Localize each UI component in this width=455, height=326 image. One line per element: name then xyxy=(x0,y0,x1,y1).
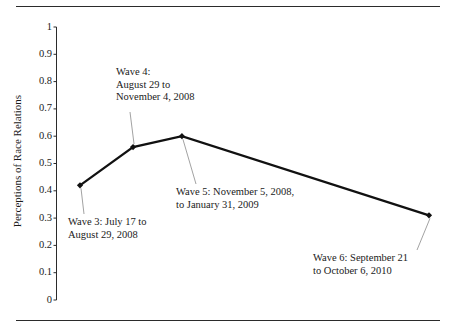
data-point-marker xyxy=(426,212,432,218)
annotation-wave-3-line-1: Wave 3: July 17 to xyxy=(68,216,146,229)
annotation-wave-6-line-2: to October 6, 2010 xyxy=(313,265,408,278)
annotation-wave-5: Wave 5: November 5, 2008, to January 31,… xyxy=(176,186,294,211)
annotation-leader-line xyxy=(417,218,430,250)
annotation-leader-line xyxy=(183,139,196,184)
annotation-wave-4-line-1: Wave 4: xyxy=(116,66,194,79)
annotation-wave-6-line-1: Wave 6: September 21 xyxy=(313,252,408,265)
annotation-wave-5-line-1: Wave 5: November 5, 2008, xyxy=(176,186,294,199)
annotation-wave-4-line-2: August 29 to xyxy=(116,79,194,92)
figure-container: Perceptions of Race Relations 10.90.80.7… xyxy=(0,0,455,326)
annotation-leader-line xyxy=(81,188,84,214)
annotation-wave-4-line-3: November 4, 2008 xyxy=(116,91,194,104)
annotation-wave-3: Wave 3: July 17 to August 29, 2008 xyxy=(68,216,146,241)
annotation-wave-4: Wave 4: August 29 to November 4, 2008 xyxy=(116,66,194,104)
annotation-wave-3-line-2: August 29, 2008 xyxy=(68,229,146,242)
data-point-marker xyxy=(179,133,185,139)
annotation-wave-5-line-2: to January 31, 2009 xyxy=(176,199,294,212)
y-axis-line-group xyxy=(54,27,57,300)
annotation-leader-line xyxy=(130,112,134,144)
annotation-wave-6: Wave 6: September 21 to October 6, 2010 xyxy=(313,252,408,277)
